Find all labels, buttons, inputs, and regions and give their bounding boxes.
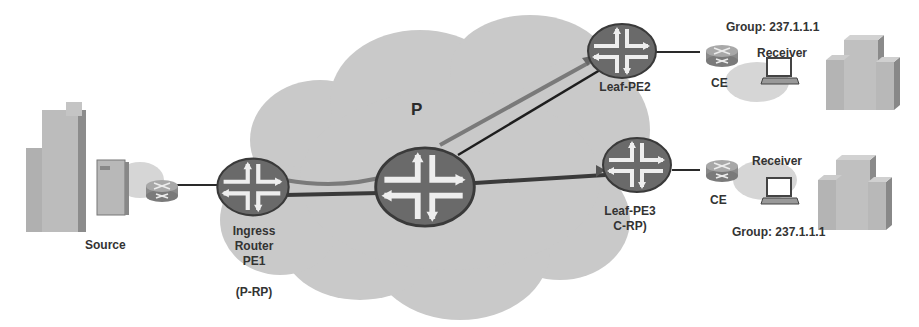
ce-router-bottom-icon (706, 160, 738, 182)
source-server-icon (97, 160, 129, 215)
group-label-bottom: Group: 237.1.1.1 (732, 225, 825, 240)
source-label: Source (85, 238, 126, 253)
ce-label-top: CE (711, 76, 728, 91)
receiver-building-bottom-icon (818, 155, 892, 230)
ingress-label-line3: PE1 (226, 254, 282, 269)
cloud-label: P (411, 102, 422, 117)
ce-label-bottom: CE (710, 193, 727, 208)
source-building-icon (26, 102, 86, 232)
group-label-top: Group: 237.1.1.1 (726, 20, 819, 35)
leaf-pe3-router-icon (603, 138, 671, 192)
ingress-label-line2: Router (226, 239, 282, 254)
leaf-pe3-label: Leaf-PE3 (600, 204, 660, 219)
leaf-pe2-label: Leaf-PE2 (595, 80, 655, 95)
ingress-role-label: (P-RP) (226, 285, 282, 300)
receiver-laptop-top-icon (761, 58, 799, 84)
leaf-pe2-router-icon (588, 24, 656, 78)
leaf-pe3-role-label: C-RP) (600, 219, 660, 234)
receiver-building-top-icon (826, 35, 900, 110)
ingress-label-line1: Ingress (226, 224, 282, 239)
ce-router-top-icon (706, 45, 738, 67)
multicast-network-diagram: P Source Ingress Router PE1 (P-RP) Leaf-… (0, 0, 919, 327)
ingress-router-icon (217, 159, 288, 216)
receiver-label-top: Receiver (757, 46, 807, 61)
receiver-label-bottom: Receiver (752, 154, 802, 169)
source-router-icon (146, 180, 178, 202)
p-router-icon (376, 148, 475, 226)
